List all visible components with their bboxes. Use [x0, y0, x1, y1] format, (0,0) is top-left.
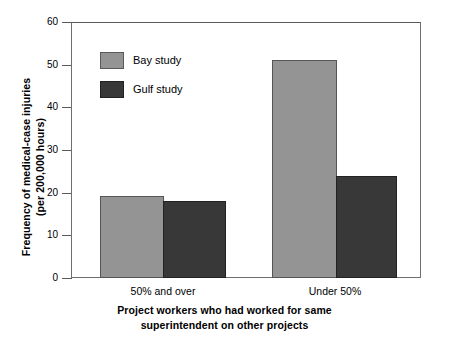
- y-tick-mark-0: [62, 278, 72, 279]
- bar-chart: Frequency of medical-case injuries (per …: [0, 0, 449, 342]
- x-axis-title: Project workers who had worked for same …: [0, 303, 449, 333]
- x-tick-label-50-percent-and-over: 50% and over: [103, 285, 223, 297]
- legend-swatch-bay-study: [100, 52, 124, 69]
- y-tick-label-0: 0: [34, 273, 58, 283]
- y-tick-label-50: 50: [34, 60, 58, 70]
- y-tick-label-30: 30: [34, 145, 58, 155]
- y-axis-title-line-1: Frequency of medical-case injuries: [19, 37, 33, 297]
- y-tick-label-10: 10: [34, 230, 58, 240]
- legend-item-gulf-study: Gulf study: [100, 79, 183, 99]
- y-tick-label-60: 60: [34, 17, 58, 27]
- x-axis-title-line-1: Project workers who had worked for same: [0, 303, 449, 318]
- legend-label-bay-study: Bay study: [133, 54, 181, 66]
- x-axis-title-line-2: superintendent on other projects: [0, 318, 449, 333]
- legend-swatch-gulf-study: [100, 81, 124, 98]
- y-tick-label-40: 40: [34, 102, 58, 112]
- x-tick-label-under-50-percent: Under 50%: [275, 285, 395, 297]
- y-axis-title: Frequency of medical-case injuries (per …: [19, 37, 53, 297]
- legend: Bay study Gulf study: [100, 50, 183, 108]
- legend-label-gulf-study: Gulf study: [133, 83, 183, 95]
- y-axis-title-line-2: (per 200,000 hours): [33, 37, 47, 297]
- y-tick-label-20: 20: [34, 188, 58, 198]
- legend-item-bay-study: Bay study: [100, 50, 183, 70]
